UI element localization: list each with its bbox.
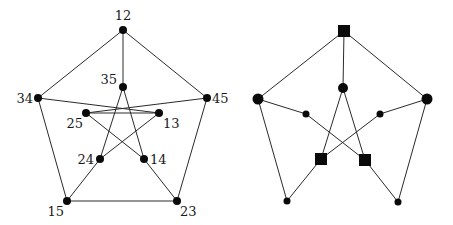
right-edge-sq_right-bottom_right [365, 160, 398, 202]
left-node-label-25: 25 [66, 116, 83, 131]
figure-canvas: 12353445251324141523 [0, 0, 453, 225]
left-edge-35-24 [100, 87, 123, 159]
left-node-35 [119, 83, 127, 91]
right-node-bottom_right [395, 199, 402, 206]
right-node-right [422, 94, 433, 105]
left-node-34 [34, 94, 42, 102]
left-node-label-24: 24 [77, 152, 94, 167]
right-graph-nodes [253, 25, 433, 206]
left-petersen-graph: 12353445251324141523 [16, 8, 228, 219]
right-edge-top-right [344, 31, 427, 99]
right-edge-center-sq_left [321, 88, 343, 159]
left-edge-12-34 [38, 30, 123, 98]
left-node-24 [96, 155, 104, 163]
left-edge-25-14 [86, 113, 144, 159]
left-node-label-45: 45 [212, 91, 229, 106]
left-node-label-14: 14 [150, 152, 167, 167]
left-node-label-13: 13 [163, 116, 180, 131]
left-edge-12-45 [123, 30, 207, 98]
right-shape-coded-graph [253, 25, 433, 206]
right-node-inner_right [377, 111, 384, 118]
right-edge-inner_left-sq_right [306, 114, 365, 160]
right-edge-right-bottom_right [398, 99, 427, 202]
right-node-inner_left [303, 111, 310, 118]
left-edge-34-13 [38, 98, 159, 113]
left-node-12 [119, 26, 127, 34]
left-node-45 [203, 94, 211, 102]
left-node-13 [155, 109, 163, 117]
left-node-15 [63, 197, 71, 205]
left-edge-35-14 [123, 87, 144, 159]
left-node-label-35: 35 [100, 72, 117, 87]
right-node-square-sq_left [315, 153, 327, 165]
left-edge-34-15 [38, 98, 67, 201]
right-node-square-top [338, 25, 350, 37]
left-graph-edges [38, 30, 207, 201]
left-node-label-23: 23 [180, 204, 197, 219]
right-edge-right-inner_right [380, 99, 427, 114]
left-edge-45-25 [86, 98, 207, 113]
right-node-center [338, 83, 348, 93]
left-node-label-15: 15 [47, 204, 64, 219]
left-edge-45-23 [177, 98, 207, 201]
right-edge-sq_left-bottom_left [287, 159, 321, 201]
right-edge-left-bottom_left [258, 99, 287, 201]
right-node-left [253, 94, 264, 105]
right-node-bottom_left [284, 198, 291, 205]
right-node-square-sq_right [359, 154, 371, 166]
right-edge-top-left [258, 31, 344, 99]
left-node-label-12: 12 [115, 8, 132, 23]
left-node-25 [82, 109, 90, 117]
left-node-14 [140, 155, 148, 163]
right-edge-inner_right-sq_left [321, 114, 380, 159]
left-node-label-34: 34 [16, 91, 33, 106]
right-edge-top-center [343, 31, 344, 88]
right-graph-edges [258, 31, 427, 202]
right-edge-center-sq_right [343, 88, 365, 160]
right-edge-left-inner_left [258, 99, 306, 114]
